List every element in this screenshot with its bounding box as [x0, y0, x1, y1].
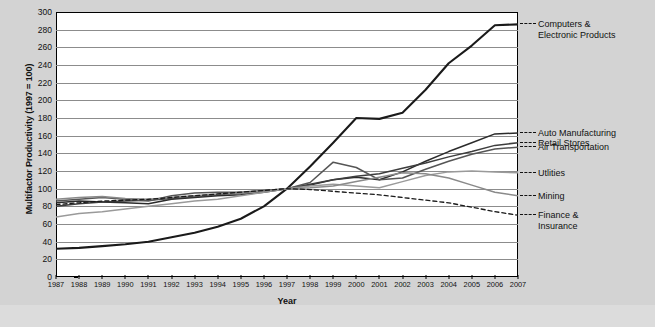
- legend-connector-line: [520, 214, 536, 215]
- x-axis-tick-mark: [125, 275, 126, 279]
- x-axis-tick-label: 1987: [48, 280, 64, 289]
- legend-connector-line: [520, 146, 536, 147]
- x-axis-tick-label: 2000: [348, 280, 364, 289]
- x-axis-tick-label: 2003: [417, 280, 433, 289]
- legend-item: Computers & Electronic Products: [538, 19, 616, 40]
- y-axis-tick-label: 40: [26, 237, 52, 247]
- x-axis-tick-mark: [79, 275, 80, 279]
- y-axis-tick-label: 280: [26, 25, 52, 35]
- x-axis-tick-label: 1988: [71, 280, 87, 289]
- y-axis-tick-label: 260: [26, 42, 52, 52]
- x-axis-tick-mark: [356, 275, 357, 279]
- legend-connector-line: [520, 195, 536, 196]
- x-axis-tick-mark: [263, 275, 264, 279]
- x-axis-tick-mark: [310, 275, 311, 279]
- x-axis-tick-label: 1996: [256, 280, 272, 289]
- y-axis-tick-label: 100: [26, 184, 52, 194]
- x-axis-tick-label: 1990: [117, 280, 133, 289]
- y-axis-tick-label: 180: [26, 113, 52, 123]
- plot-area: [56, 12, 518, 277]
- x-axis-tick-label: 1997: [279, 280, 295, 289]
- x-axis-tick-mark: [518, 275, 519, 279]
- y-axis-tick-label: 300: [26, 7, 52, 17]
- x-axis-tick-mark: [402, 275, 403, 279]
- x-axis-tick-mark: [171, 275, 172, 279]
- x-axis-tick-mark: [148, 275, 149, 279]
- x-axis-tick-mark: [448, 275, 449, 279]
- x-axis-tick-label: 2001: [371, 280, 387, 289]
- x-axis-tick-label: 1999: [325, 280, 341, 289]
- y-axis-tick-label: 60: [26, 219, 52, 229]
- legend-item: Utlities: [538, 168, 565, 179]
- legend-connector-line: [520, 132, 536, 133]
- x-axis-tick-mark: [471, 275, 472, 279]
- legend-item: Air Transportation: [538, 142, 609, 153]
- x-axis-tick-label: 1993: [186, 280, 202, 289]
- series-line: [56, 24, 518, 248]
- x-axis-tick-mark: [333, 275, 334, 279]
- x-axis-tick-mark: [217, 275, 218, 279]
- series-line: [56, 189, 518, 216]
- y-axis-tick-label: 220: [26, 78, 52, 88]
- series-lines: [56, 12, 518, 277]
- series-line: [56, 133, 518, 204]
- x-axis-tick-label: 1995: [233, 280, 249, 289]
- y-axis-tick-label: 80: [26, 201, 52, 211]
- x-axis-title: Year: [56, 296, 518, 306]
- x-axis-tick-mark: [194, 275, 195, 279]
- x-axis-tick-mark: [287, 275, 288, 279]
- x-axis-tick-label: 1992: [163, 280, 179, 289]
- y-axis-tick-label: 240: [26, 60, 52, 70]
- x-axis-tick-label: 2006: [487, 280, 503, 289]
- legend-connector-line: [520, 172, 536, 173]
- legend-item: Finance & Insurance: [538, 210, 579, 231]
- legend-connector-line: [520, 23, 536, 24]
- x-axis-tick-label: 1994: [209, 280, 225, 289]
- x-axis-tick-mark: [56, 275, 57, 279]
- y-axis-tick-label: 200: [26, 95, 52, 105]
- x-axis-tick-mark: [379, 275, 380, 279]
- x-axis-tick-label: 1989: [94, 280, 110, 289]
- y-axis-tick-label: 120: [26, 166, 52, 176]
- x-axis-tick-mark: [240, 275, 241, 279]
- x-axis-tick-labels: 1987198819891990199119921993199419951996…: [56, 280, 518, 294]
- series-line: [56, 147, 518, 201]
- x-axis-tick-label: 2005: [464, 280, 480, 289]
- x-axis-tick-mark: [102, 275, 103, 279]
- y-axis-tick-label: 140: [26, 148, 52, 158]
- chart-svg: [56, 12, 518, 277]
- chart-figure: Multifactor Productivity (1997 = 100) 02…: [0, 0, 655, 327]
- y-axis-tick-labels: 0204060801001201401601802002202402602803…: [22, 12, 52, 277]
- x-axis-tick-label: 2002: [394, 280, 410, 289]
- x-axis-tick-label: 1998: [302, 280, 318, 289]
- chart-legend: Computers & Electronic ProductsAuto Manu…: [520, 0, 655, 327]
- legend-item: Mining: [538, 191, 565, 202]
- legend-connector-line: [520, 142, 536, 143]
- x-axis-tick-label: 2004: [440, 280, 456, 289]
- series-line: [56, 173, 518, 200]
- x-axis-tick-mark: [425, 275, 426, 279]
- x-axis-tick-mark: [494, 275, 495, 279]
- x-axis-tick-label: 1991: [140, 280, 156, 289]
- y-axis-tick-mark: [74, 277, 78, 278]
- y-axis-tick-label: 20: [26, 254, 52, 264]
- y-axis-tick-label: 160: [26, 131, 52, 141]
